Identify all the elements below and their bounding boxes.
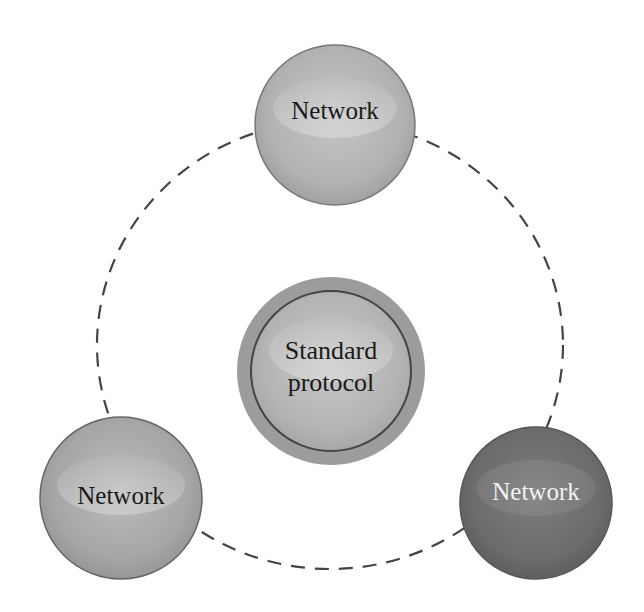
network-node-bottom-right-label-area: Network: [460, 427, 612, 579]
standard-protocol-line2: protocol: [237, 367, 425, 399]
standard-protocol-label-area: Standard protocol: [237, 277, 425, 465]
network-node-bottom-left-label-area: Network: [40, 417, 202, 579]
standard-protocol-line1: Standard: [237, 335, 425, 367]
network-label-top: Network: [255, 97, 415, 125]
standard-protocol-label: Standard protocol: [237, 335, 425, 399]
network-label-bottom-right: Network: [460, 478, 612, 506]
network-node-top-label-area: Network: [255, 45, 415, 205]
network-label-bottom-left: Network: [40, 482, 202, 510]
network-protocol-diagram: Network Network Network Standard protoco…: [0, 0, 644, 612]
